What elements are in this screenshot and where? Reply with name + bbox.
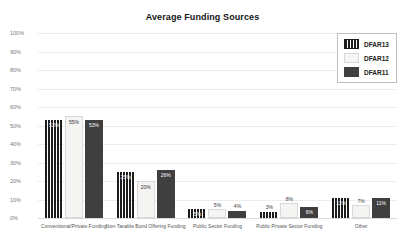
- bar-value-label: 26%: [157, 172, 175, 178]
- y-axis-tick-label: 60%: [0, 104, 32, 110]
- y-axis-tick-label: 90%: [0, 49, 32, 55]
- x-axis-category-label: Conventional/Private Funding: [41, 223, 107, 229]
- bar-value-label: 3%: [260, 204, 278, 210]
- y-axis-tick-label: 40%: [0, 141, 32, 147]
- legend-item-dfar13: DFAR13: [344, 39, 389, 49]
- legend-swatch-icon: [344, 67, 359, 77]
- y-axis-tick-label: 30%: [0, 160, 32, 166]
- x-axis-category-label: Public Sector Funding: [193, 223, 242, 229]
- legend-label: DFAR11: [364, 69, 389, 76]
- bar-value-label: 11%: [332, 200, 350, 206]
- bar-value-label: 8%: [281, 196, 297, 202]
- y-axis-tick-label: 20%: [0, 178, 32, 184]
- x-axis-category-label: Other: [355, 223, 368, 229]
- y-axis-tick-label: 50%: [0, 123, 32, 129]
- bar-dfar11: 6%: [300, 207, 318, 218]
- legend-label: DFAR13: [364, 41, 389, 48]
- bar-value-label: 55%: [66, 119, 82, 125]
- y-axis-tick-label: 70%: [0, 86, 32, 92]
- bar-dfar12: 5%: [208, 209, 226, 218]
- bar-value-label: 25%: [117, 174, 135, 180]
- legend: DFAR13DFAR12DFAR11: [337, 33, 397, 83]
- y-axis-tick-label: 0%: [0, 215, 32, 221]
- legend-swatch-icon: [344, 53, 359, 63]
- bar-group: 5%5%4%: [182, 209, 254, 218]
- bar-value-label: 5%: [188, 211, 206, 217]
- bar-group: 3%8%6%: [253, 203, 325, 218]
- y-axis-tick-label: 80%: [0, 67, 32, 73]
- bar-dfar11: 4%: [228, 211, 246, 218]
- bar-value-label: 7%: [353, 198, 369, 204]
- bar-dfar12: 55%: [65, 116, 83, 218]
- chart-container: Average Funding Sources 53%55%53%Convent…: [0, 0, 405, 246]
- bar-group: 25%20%26%: [110, 170, 182, 218]
- bar-group: 11%7%11%: [325, 198, 397, 218]
- x-axis-category-label: Public-Private Sector Funding: [256, 223, 322, 229]
- bar-dfar11: 11%: [372, 198, 390, 218]
- bar-dfar13: 53%: [45, 120, 63, 218]
- bar-dfar13: 25%: [117, 172, 135, 218]
- y-axis-tick-label: 10%: [0, 197, 32, 203]
- chart-title: Average Funding Sources: [0, 12, 405, 22]
- bar-value-label: 4%: [228, 203, 246, 209]
- bar-dfar12: 20%: [137, 181, 155, 218]
- bar-value-label: 5%: [209, 202, 225, 208]
- legend-item-dfar12: DFAR12: [344, 53, 389, 63]
- gridline: [38, 218, 397, 219]
- bar-dfar11: 53%: [85, 120, 103, 218]
- bar-dfar11: 26%: [157, 170, 175, 218]
- legend-label: DFAR12: [364, 55, 389, 62]
- bar-value-label: 53%: [45, 122, 63, 128]
- x-axis-category-label: Non-Taxable Bond Offering Funding: [106, 223, 186, 229]
- bar-value-label: 20%: [138, 184, 154, 190]
- gridline: [38, 107, 397, 108]
- bar-dfar13: 5%: [188, 209, 206, 218]
- bar-dfar13: 11%: [332, 198, 350, 218]
- bar-value-label: 6%: [300, 209, 318, 215]
- bar-group: 53%55%53%: [38, 116, 110, 218]
- y-axis-tick-label: 100%: [0, 30, 32, 36]
- bar-value-label: 53%: [85, 122, 103, 128]
- gridline: [38, 89, 397, 90]
- bar-dfar12: 8%: [280, 203, 298, 218]
- legend-swatch-icon: [344, 39, 359, 49]
- legend-item-dfar11: DFAR11: [344, 67, 389, 77]
- bar-dfar13: 3%: [260, 212, 278, 218]
- bar-dfar12: 7%: [352, 205, 370, 218]
- bar-value-label: 11%: [372, 200, 390, 206]
